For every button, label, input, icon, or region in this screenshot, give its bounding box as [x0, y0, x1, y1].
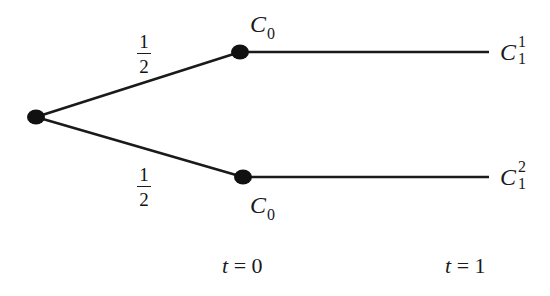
label-variable: C	[500, 164, 516, 190]
lower-branch-probability: 1 2	[136, 165, 152, 209]
tree-edges	[0, 0, 550, 296]
upper-end-label: C11	[500, 40, 526, 74]
fraction-bar	[137, 186, 151, 187]
root-node	[27, 110, 45, 125]
label-subscript: 1	[518, 51, 526, 68]
label-indices: 11	[518, 34, 526, 68]
label-variable: C	[250, 192, 266, 218]
time-value: = 0	[228, 253, 262, 278]
label-subscript: 0	[267, 25, 275, 42]
prob-denominator: 2	[139, 57, 149, 76]
fraction-bar	[137, 53, 151, 54]
label-subscript: 0	[267, 206, 275, 223]
time-value: = 1	[451, 253, 485, 278]
lower-node	[234, 170, 252, 185]
time-label-t0: t = 0	[222, 255, 263, 277]
upper-node-label: C0	[250, 12, 275, 36]
label-variable: C	[250, 11, 266, 37]
lower-end-label: C21	[500, 165, 526, 199]
label-subscript: 1	[518, 176, 526, 193]
label-variable: C	[500, 39, 516, 65]
prob-numerator: 1	[139, 32, 149, 51]
prob-denominator: 2	[139, 190, 149, 209]
time-label-t1: t = 1	[445, 255, 486, 277]
prob-numerator: 1	[139, 165, 149, 184]
label-superscript: 1	[518, 34, 526, 51]
lower-node-label: C0	[250, 193, 275, 217]
upper-node	[231, 45, 249, 60]
upper-branch-probability: 1 2	[136, 32, 152, 76]
label-superscript: 2	[518, 159, 526, 176]
label-indices: 21	[518, 159, 526, 193]
event-tree-diagram: 1 2 1 2 C0 C0 C11 C21 t = 0 t = 1	[0, 0, 550, 296]
